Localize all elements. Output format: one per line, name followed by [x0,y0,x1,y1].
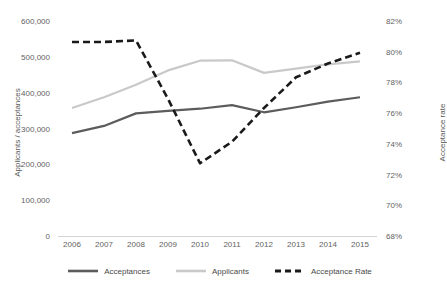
series-line-acceptance-rate [72,40,360,163]
x-axis-tick: 2012 [247,240,281,249]
y-axis-right-tick: 82% [386,17,432,26]
x-axis-tick: 2011 [215,240,249,249]
y-axis-left-tick: 0 [4,232,50,241]
legend-swatch-icon [275,267,305,275]
legend-swatch-icon [176,267,206,275]
legend-item-applicants[interactable]: Applicants [176,267,249,276]
y-axis-left-tick: 100,000 [4,196,50,205]
legend-label: Acceptances [104,267,150,276]
y-axis-right-tick: 68% [386,232,432,241]
x-axis-tick: 2006 [55,240,89,249]
legend-item-acceptance-rate[interactable]: Acceptance Rate [275,267,372,276]
x-axis-tick: 2008 [119,240,153,249]
y-axis-left-tick: 500,000 [4,53,50,62]
chart-legend: AcceptancesApplicantsAcceptance Rate [60,263,380,279]
y-axis-left-tick: 600,000 [4,17,50,26]
x-axis-tick: 2013 [279,240,313,249]
y-axis-left-tick: 300,000 [4,125,50,134]
legend-label: Acceptance Rate [311,267,372,276]
y-axis-left-tick: 200,000 [4,160,50,169]
series-line-acceptances [72,97,360,133]
legend-label: Applicants [212,267,249,276]
plot-area [58,22,374,237]
y-axis-left-tick: 400,000 [4,89,50,98]
plot-lines [58,22,374,237]
x-axis-tick: 2015 [343,240,377,249]
x-axis-tick: 2009 [151,240,185,249]
y-axis-right-tick: 76% [386,109,432,118]
x-axis-tick: 2007 [87,240,121,249]
y-axis-right-tick: 72% [386,171,432,180]
y-axis-right-tick: 80% [386,48,432,57]
y-axis-right-tick: 78% [386,78,432,87]
y-axis-right-tick: 70% [386,201,432,210]
x-axis-tick: 2010 [183,240,217,249]
legend-item-acceptances[interactable]: Acceptances [68,267,150,276]
y-axis-right-tick: 74% [386,140,432,149]
y-axis-right-title: Acceptance rate [438,73,447,193]
legend-swatch-icon [68,267,98,275]
x-axis-tick: 2014 [311,240,345,249]
